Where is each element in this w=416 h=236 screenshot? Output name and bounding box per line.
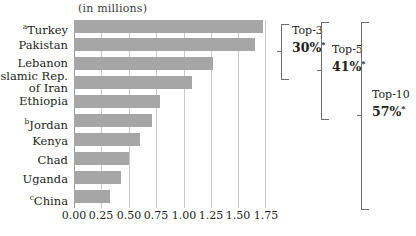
bar-iran [74,76,192,89]
x-axis: 0.00 0.25 0.50 0.75 1.00 1.25 1.50 1.75 [0,209,416,229]
bar-chad [74,152,129,165]
category-label-china: cChina [30,192,68,207]
annotation-top10-label: Top-10 [372,88,410,101]
bar-lebanon [74,57,213,70]
chart-container: (in millions) aTurkey Pakistan Lebanon I… [0,0,416,236]
chart-title: (in millions) [78,2,147,15]
bar-turkey [74,20,263,33]
bar-series [74,20,266,208]
category-label-pakistan: Pakistan [18,39,68,51]
bar-china [74,190,110,203]
category-label-turkey: aTurkey [23,21,68,36]
category-axis-labels: aTurkey Pakistan Lebanon Islamic Rep. of… [0,20,72,208]
category-label-iran-line2: of Iran [29,82,68,94]
xtick-0.50: 0.50 [117,209,142,222]
bracket-top3-nub [277,51,281,52]
bracket-top5-nub [317,70,321,71]
annotation-top10-value: 57%* [372,101,410,119]
category-label-chad: Chad [38,154,68,166]
xtick-1.75: 1.75 [254,209,279,222]
bracket-top10 [361,22,369,210]
category-label-kenya: Kenya [32,135,68,147]
xtick-0.75: 0.75 [144,209,169,222]
category-label-lebanon: Lebanon [18,57,68,69]
bar-jordan [74,114,152,127]
bracket-top10-nub [357,115,361,116]
category-label-uganda: Uganda [22,173,68,185]
category-label-ethiopia: Ethiopia [19,95,68,107]
xtick-1.25: 1.25 [199,209,224,222]
bracket-top3 [281,24,289,80]
plot-area [74,20,266,208]
category-label-jordan: bJordan [25,116,68,131]
bar-uganda [74,171,121,184]
bar-kenya [74,133,140,146]
bar-ethiopia [74,95,160,108]
annotation-top10: Top-10 57%* [372,88,410,119]
xtick-0.25: 0.25 [89,209,114,222]
bar-pakistan [74,38,255,51]
xtick-1.50: 1.50 [226,209,251,222]
xtick-0.00: 0.00 [62,209,87,222]
xtick-1.00: 1.00 [172,209,197,222]
bracket-top5 [321,22,329,120]
